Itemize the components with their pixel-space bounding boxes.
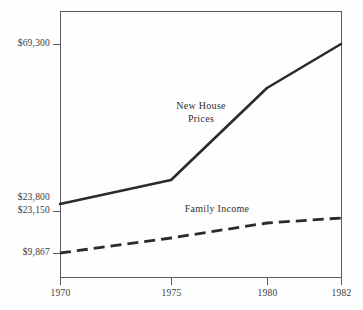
x-axis-label-2: 1980 <box>245 288 290 298</box>
series-annotation-family-income: Family Income <box>167 202 267 215</box>
y-axis-label-2: $23,150 <box>0 205 50 215</box>
y-axis-label-1: $23,800 <box>0 192 50 202</box>
x-axis-label-0: 1970 <box>38 288 83 298</box>
chart-container: $69,300 $23,800 $23,150 $9,867 1970 1975… <box>0 0 363 310</box>
y-axis-label-3: $9,867 <box>0 247 50 257</box>
y-axis-label-0: $69,300 <box>0 38 50 48</box>
x-axis-label-3: 1982 <box>319 288 363 298</box>
series-annotation-new-house-prices: New House Prices <box>160 99 242 125</box>
plot-frame <box>61 12 342 278</box>
chart-plot-area <box>0 0 363 310</box>
series-line-family-income <box>60 218 341 253</box>
x-axis-label-1: 1975 <box>149 288 194 298</box>
series-annotation-line-2: Prices <box>160 112 242 125</box>
series-annotation-line-1: New House <box>160 99 242 112</box>
